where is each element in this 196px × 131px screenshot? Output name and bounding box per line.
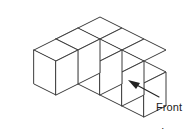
front-view-label-line2: view	[156, 126, 196, 131]
front-view-label: Front view	[156, 88, 196, 130]
isometric-cube-figure: Front view	[0, 0, 196, 130]
front-view-label-line1: Front	[156, 101, 196, 114]
